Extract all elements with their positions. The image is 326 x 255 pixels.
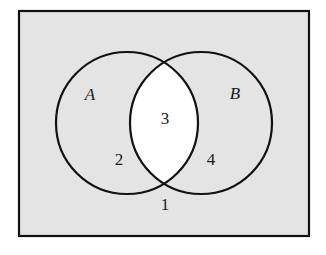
region-1-label: 1 bbox=[161, 195, 170, 214]
set-a-label: A bbox=[84, 85, 96, 104]
venn-diagram: A B 1 2 3 4 bbox=[0, 0, 326, 255]
region-4-label: 4 bbox=[207, 150, 216, 169]
region-2-label: 2 bbox=[115, 150, 124, 169]
set-b-label: B bbox=[230, 84, 241, 103]
region-3-label: 3 bbox=[161, 109, 170, 128]
